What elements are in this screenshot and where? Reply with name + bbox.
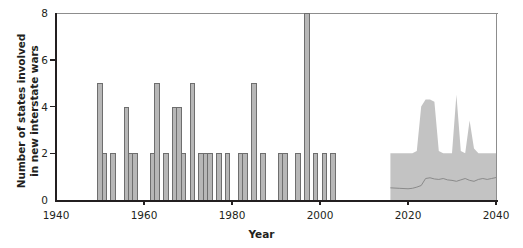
bar-1977	[216, 153, 222, 200]
projection-fan-svg	[55, 13, 497, 201]
bar-1997	[304, 13, 310, 200]
bar-1987	[260, 153, 266, 200]
bar-1965	[163, 153, 169, 200]
bar-1958	[132, 153, 138, 200]
y-tick-label-0: 0	[31, 195, 48, 205]
bar-1999	[313, 153, 319, 200]
y-tick-label-8: 8	[31, 8, 48, 18]
bar-2001	[322, 153, 328, 200]
y-tick-label-2: 2	[31, 148, 48, 158]
bar-1979	[225, 153, 231, 200]
bar-1971	[190, 83, 196, 200]
projection-band	[55, 13, 497, 201]
x-tick-label-1980: 1980	[210, 209, 254, 221]
y-tick-label-6: 6	[31, 55, 48, 65]
x-tick-label-1940: 1940	[34, 209, 78, 221]
x-tick-label-2000: 2000	[298, 209, 342, 221]
chart-figure: Number of states involved in new interst…	[0, 0, 523, 248]
bar-1963	[154, 83, 160, 200]
plot-area: 02468 194019601980200020202040	[55, 13, 497, 201]
x-axis-title: Year	[0, 228, 523, 240]
bar-1992	[282, 153, 288, 200]
bar-1985	[251, 83, 257, 200]
x-tick-label-2040: 2040	[474, 209, 518, 221]
bar-1975	[207, 153, 213, 200]
x-tick-label-1960: 1960	[122, 209, 166, 221]
bar-1983	[242, 153, 248, 200]
bar-1951	[102, 153, 108, 200]
bar-1995	[295, 153, 301, 200]
bar-2003	[330, 153, 336, 200]
y-tick-label-4: 4	[31, 102, 48, 112]
bar-1953	[110, 153, 116, 200]
bar-1969	[181, 153, 187, 200]
projection-range-area	[390, 95, 496, 200]
x-tick-label-2020: 2020	[386, 209, 430, 221]
